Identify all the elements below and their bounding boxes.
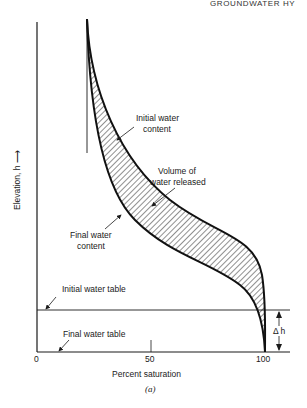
arrow-initial-water-table — [46, 297, 56, 309]
label-volume-released: Volume of — [158, 166, 196, 176]
x-axis-label: Percent saturation — [112, 369, 181, 379]
running-header: GROUNDWATER HY — [210, 0, 295, 8]
label-delta-h: Δ h — [273, 326, 286, 336]
label-initial-water-content: Initial water — [136, 113, 179, 123]
drainage-diagram: GROUNDWATER HY Initial water content Vol… — [0, 0, 307, 408]
x-tick-label-50: 50 — [145, 354, 155, 364]
label-initial-water-content-2: content — [143, 124, 172, 134]
x-tick-label-0: 0 — [34, 354, 39, 364]
arrow-final-water-table — [59, 340, 69, 351]
label-final-water-content-2: content — [77, 241, 106, 251]
arrow-initial-water-content — [117, 127, 134, 140]
x-tick-label-100: 100 — [256, 354, 270, 364]
arrow-final-water-content — [105, 215, 121, 229]
label-final-water-table: Final water table — [63, 329, 126, 339]
label-final-water-content: Final water — [70, 230, 112, 240]
delta-h-arrow-down-icon — [276, 344, 282, 351]
label-volume-released-2: water released — [149, 177, 206, 187]
figure-caption: (a) — [145, 384, 156, 394]
label-initial-water-table: Initial water table — [62, 284, 126, 294]
y-axis-label: Elevation, h ⟶ — [12, 150, 22, 210]
delta-h-arrow-up-icon — [276, 311, 282, 318]
